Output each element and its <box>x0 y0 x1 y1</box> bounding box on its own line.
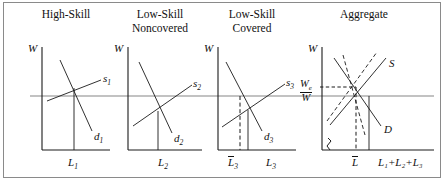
figure-container: High-Skill Low-Skill Noncovered Low-Skil… <box>0 0 445 181</box>
panel-title-high-skill: High-Skill <box>28 8 104 20</box>
panel-high-skill-demand-curve <box>60 60 92 131</box>
supply-label-high-skill: s1 <box>103 72 111 87</box>
panel-subtitle-noncovered: Noncovered <box>113 22 207 34</box>
x-axis-label-covered: L3 <box>266 156 276 171</box>
supply-label-aggregate: S <box>389 57 395 69</box>
panel-low-skill-covered-axes <box>218 47 296 150</box>
panel-subtitle-covered: Covered <box>210 22 294 34</box>
supply-label-noncovered: s2 <box>193 77 201 92</box>
wage-minimum-label: W <box>300 92 312 104</box>
panel-title-low-skill-covered: Low-Skill <box>210 8 294 20</box>
wage-labels-aggregate: We W <box>300 79 312 104</box>
x-axis-label-aggregate-constrained: L <box>352 156 358 169</box>
y-axis-label-covered: W <box>204 42 213 54</box>
panel-low-skill-noncovered-supply-curve <box>133 85 192 126</box>
axis-break-icon <box>327 138 331 150</box>
demand-label-aggregate: D <box>384 123 392 135</box>
panel-aggregate-demand-curve-dashed <box>343 55 365 135</box>
demand-label-high-skill: d1 <box>94 130 103 145</box>
panel-title-aggregate: Aggregate <box>320 8 408 20</box>
panel-low-skill-noncovered-demand-curve <box>139 62 172 133</box>
panel-title-low-skill-noncovered: Low-Skill <box>118 8 202 20</box>
supply-label-covered: s3 <box>286 76 294 91</box>
x-axis-label-noncovered: L2 <box>158 156 168 171</box>
panel-aggregate-demand-curve <box>334 58 381 126</box>
demand-label-noncovered: d2 <box>174 132 183 147</box>
wage-equilibrium-label: We <box>300 78 312 89</box>
y-axis-label-noncovered: W <box>114 42 123 54</box>
panel-low-skill-covered-supply-curve <box>222 84 285 127</box>
x-axis-label-aggregate: L₁+L₂+L₃ <box>378 156 423 168</box>
y-axis-label-aggregate: W <box>308 42 317 54</box>
x-axis-label-covered-constrained: L3 <box>228 156 238 171</box>
y-axis-label-high-skill: W <box>28 42 37 54</box>
panel-aggregate-supply-curve <box>330 58 386 125</box>
panel-aggregate-axes <box>322 47 434 150</box>
x-axis-label-high-skill: L1 <box>68 156 78 171</box>
demand-label-covered: d3 <box>264 130 273 145</box>
